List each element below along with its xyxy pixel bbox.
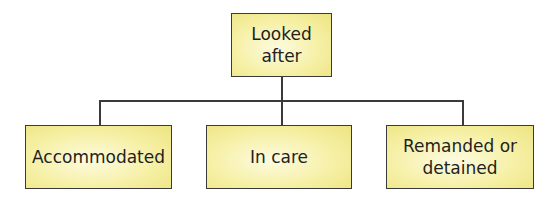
child-node-accommodated: Accommodated [25, 125, 172, 189]
child-node-in-care: In care [206, 125, 352, 189]
root-label: Looked after [232, 23, 331, 67]
child-label: Accommodated [32, 146, 165, 168]
child-label: In care [250, 146, 308, 168]
child-label-line-1: Remanded or [403, 135, 517, 157]
connector-child-3 [462, 100, 464, 125]
connector-child-2 [281, 100, 283, 125]
child-node-remanded-or-detained: Remanded or detained [386, 125, 534, 189]
child-label-line-2: detained [422, 157, 497, 179]
connector-child-1 [99, 100, 101, 125]
root-node: Looked after [231, 13, 332, 77]
connector-root-vertical [281, 77, 283, 100]
